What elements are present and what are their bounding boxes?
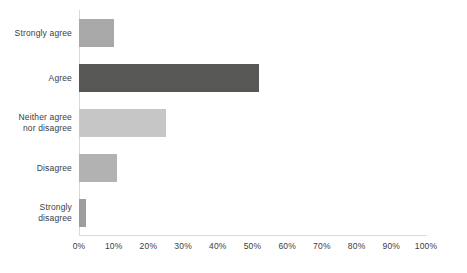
category-label-strongly-disagree: Strongly disagree: [0, 202, 72, 224]
x-tick-label-70: 70%: [313, 240, 331, 252]
bar-row-disagree: Disagree: [0, 145, 467, 190]
bar-chart: Strongly agree Agree Neither agree nor d…: [0, 0, 467, 273]
bar-row-strongly-disagree: Strongly disagree: [0, 190, 467, 235]
bar-row-neither-agree-nor-disagree: Neither agree nor disagree: [0, 100, 467, 145]
x-tick-label-90: 90%: [382, 240, 400, 252]
bar-track-strongly-disagree: [79, 190, 426, 235]
category-label-strongly-agree: Strongly agree: [0, 27, 72, 38]
x-tick-label-60: 60%: [278, 240, 296, 252]
x-tick-label-40: 40%: [209, 240, 227, 252]
bar-strongly-disagree: [79, 199, 86, 227]
x-axis-line: [79, 235, 427, 236]
bar-track-neither-agree-nor-disagree: [79, 100, 426, 145]
x-axis-tick-labels: 0%10%20%30%40%50%60%70%80%90%100%: [0, 240, 467, 256]
bar-rows: Strongly agree Agree Neither agree nor d…: [0, 10, 467, 235]
bar-track-agree: [79, 55, 426, 100]
bar-row-strongly-agree: Strongly agree: [0, 10, 467, 55]
x-tick-label-80: 80%: [348, 240, 366, 252]
bar-track-disagree: [79, 145, 426, 190]
x-tick-label-10: 10%: [105, 240, 123, 252]
category-label-agree: Agree: [0, 72, 72, 83]
bar-row-agree: Agree: [0, 55, 467, 100]
x-tick-label-0: 0%: [73, 240, 86, 252]
bar-disagree: [79, 154, 117, 182]
x-tick-label-50: 50%: [244, 240, 262, 252]
category-label-neither-agree-nor-disagree: Neither agree nor disagree: [0, 112, 72, 134]
bar-agree: [79, 64, 259, 92]
x-tick-label-100: 100%: [415, 240, 438, 252]
x-tick-label-20: 20%: [140, 240, 158, 252]
bar-track-strongly-agree: [79, 10, 426, 55]
category-label-disagree: Disagree: [0, 162, 72, 173]
bar-neither-agree-nor-disagree: [79, 109, 166, 137]
bar-strongly-agree: [79, 19, 114, 47]
x-tick-label-30: 30%: [174, 240, 192, 252]
